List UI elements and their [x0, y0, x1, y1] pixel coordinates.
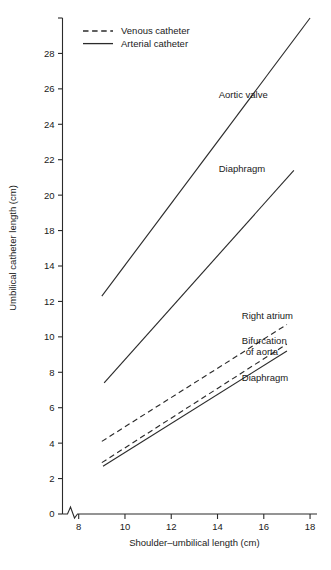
legend-label-arterial-catheter: Arterial catheter: [121, 38, 188, 49]
series-line-aortic-valve: [102, 18, 310, 296]
x-axis: 81012141618: [63, 507, 318, 532]
y-tick-label: 6: [49, 402, 54, 413]
y-tick-label: 0: [49, 508, 54, 519]
series-annotation-diaphragm-venous: Diaphragm: [242, 372, 289, 383]
axis-titles: Shoulder–umbilical length (cm)Umbilical …: [7, 185, 260, 548]
y-tick-label: 24: [44, 119, 55, 130]
y-tick-label: 12: [44, 296, 55, 307]
x-tick-label: 10: [120, 521, 131, 532]
y-tick-label: 18: [44, 225, 55, 236]
y-tick-label: 8: [49, 367, 54, 378]
y-axis: 02468101214182022242628: [44, 18, 63, 519]
y-tick-label: 14: [44, 260, 55, 271]
series-line-diaphragm-venous: [103, 351, 287, 466]
y-tick-label: 22: [44, 154, 55, 165]
x-tick-label: 8: [76, 521, 81, 532]
legend-label-venous-catheter: Venous catheter: [121, 25, 190, 36]
chart-container: 02468101214182022242628 81012141618 Aort…: [0, 0, 331, 570]
series-line-bifurcation-of-aorta: [102, 344, 287, 463]
series-annotation-diaphragm-arterial: Diaphragm: [219, 163, 266, 174]
x-tick-label: 18: [305, 521, 316, 532]
x-tick-label: 12: [166, 521, 177, 532]
catheter-length-line-chart: 02468101214182022242628 81012141618 Aort…: [0, 0, 331, 570]
data-series-group: [102, 18, 310, 466]
y-tick-label: 28: [44, 48, 55, 59]
y-axis-title: Umbilical catheter length (cm): [7, 185, 18, 311]
x-axis-title: Shoulder–umbilical length (cm): [129, 537, 259, 548]
x-tick-label: 14: [212, 521, 223, 532]
series-annotations-group: Aortic valveDiaphragmRight atriumBifurca…: [219, 89, 293, 383]
x-axis-line-with-break: [63, 507, 318, 518]
x-tick-label: 16: [258, 521, 269, 532]
y-tick-label: 10: [44, 331, 55, 342]
y-tick-label: 2: [49, 473, 54, 484]
series-annotation-bifurcation-of-aorta-line2: of aorta: [246, 346, 279, 357]
series-annotation-bifurcation-of-aorta: Bifurcation: [242, 335, 287, 346]
y-tick-label: 4: [49, 438, 54, 449]
series-annotation-aortic-valve: Aortic valve: [219, 89, 268, 100]
y-tick-label: 26: [44, 83, 55, 94]
legend: Venous catheterArterial catheter: [83, 25, 190, 49]
series-annotation-right-atrium: Right atrium: [242, 310, 293, 321]
y-tick-label: 20: [44, 190, 55, 201]
